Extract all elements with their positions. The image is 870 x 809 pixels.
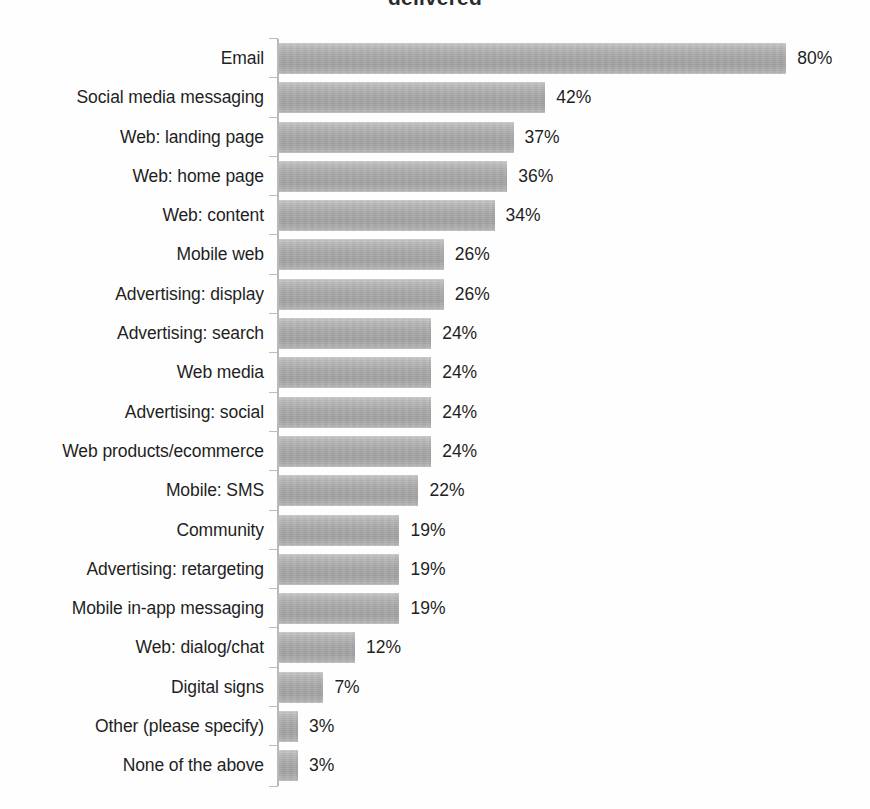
bar bbox=[279, 672, 323, 703]
axis-tick bbox=[269, 156, 278, 157]
bar bbox=[279, 397, 431, 428]
category-label: Other (please specify) bbox=[95, 707, 264, 746]
bar-row: Web products/ecommerce24% bbox=[0, 432, 870, 471]
category-label: None of the above bbox=[123, 746, 264, 785]
bar-fill bbox=[279, 239, 444, 270]
bar-value-label: 34% bbox=[506, 196, 541, 235]
bar-value-label: 24% bbox=[442, 353, 477, 392]
category-label: Mobile web bbox=[176, 235, 264, 274]
bar bbox=[279, 357, 431, 388]
bar bbox=[279, 318, 431, 349]
category-label: Digital signs bbox=[171, 668, 264, 707]
bar bbox=[279, 239, 444, 270]
bar-fill bbox=[279, 200, 495, 231]
bar-value-label: 26% bbox=[455, 235, 490, 274]
bar bbox=[279, 43, 786, 74]
axis-tick bbox=[269, 470, 278, 471]
category-label: Web: home page bbox=[132, 157, 264, 196]
bar bbox=[279, 436, 431, 467]
bar-fill bbox=[279, 318, 431, 349]
bar-fill bbox=[279, 357, 431, 388]
bar-fill bbox=[279, 632, 355, 663]
bar-row: Web: landing page37% bbox=[0, 118, 870, 157]
bar-row: Web: content34% bbox=[0, 196, 870, 235]
category-label: Web: landing page bbox=[120, 118, 264, 157]
bar bbox=[279, 711, 298, 742]
bar-fill bbox=[279, 554, 399, 585]
bar bbox=[279, 475, 418, 506]
bar-value-label: 22% bbox=[429, 471, 464, 510]
bar-value-label: 19% bbox=[410, 550, 445, 589]
axis-tick bbox=[269, 588, 278, 589]
category-label: Advertising: display bbox=[115, 275, 264, 314]
category-label: Email bbox=[221, 39, 264, 78]
axis-tick bbox=[269, 549, 278, 550]
bar-fill bbox=[279, 475, 418, 506]
bar bbox=[279, 122, 514, 153]
category-label: Advertising: social bbox=[125, 393, 264, 432]
bar-row: Social media messaging42% bbox=[0, 78, 870, 117]
bar bbox=[279, 750, 298, 781]
category-label: Advertising: search bbox=[117, 314, 264, 353]
category-label: Web media bbox=[177, 353, 264, 392]
bar bbox=[279, 554, 399, 585]
bar-fill bbox=[279, 593, 399, 624]
category-label: Mobile in-app messaging bbox=[72, 589, 264, 628]
bar-row: Other (please specify)3% bbox=[0, 707, 870, 746]
bar-row: Community19% bbox=[0, 511, 870, 550]
bar-value-label: 19% bbox=[410, 511, 445, 550]
bar-row: Mobile web26% bbox=[0, 235, 870, 274]
bar-row: Email80% bbox=[0, 39, 870, 78]
bar bbox=[279, 200, 495, 231]
bar-row: Advertising: social24% bbox=[0, 393, 870, 432]
bar bbox=[279, 632, 355, 663]
bar-fill bbox=[279, 672, 323, 703]
axis-tick bbox=[269, 77, 278, 78]
axis-tick bbox=[269, 745, 278, 746]
bar-value-label: 24% bbox=[442, 432, 477, 471]
axis-tick bbox=[269, 510, 278, 511]
bar-fill bbox=[279, 515, 399, 546]
bar-row: Advertising: display26% bbox=[0, 275, 870, 314]
category-label: Social media messaging bbox=[77, 78, 264, 117]
axis-tick bbox=[269, 667, 278, 668]
axis-tick bbox=[269, 117, 278, 118]
bar-fill bbox=[279, 161, 507, 192]
bar bbox=[279, 593, 399, 624]
bar-row: None of the above3% bbox=[0, 746, 870, 785]
bar-value-label: 37% bbox=[525, 118, 560, 157]
axis-tick bbox=[269, 706, 278, 707]
bar-row: Web media24% bbox=[0, 353, 870, 392]
bar-row: Mobile in-app messaging19% bbox=[0, 589, 870, 628]
category-label: Community bbox=[176, 511, 264, 550]
bar-value-label: 80% bbox=[797, 39, 832, 78]
category-label: Mobile: SMS bbox=[166, 471, 264, 510]
plot-area: Email80%Social media messaging42%Web: la… bbox=[0, 0, 870, 809]
bar-fill bbox=[279, 711, 298, 742]
axis-tick bbox=[269, 234, 278, 235]
axis-tick bbox=[269, 431, 278, 432]
axis-tick bbox=[269, 627, 278, 628]
bar-value-label: 24% bbox=[442, 393, 477, 432]
bar-row: Advertising: search24% bbox=[0, 314, 870, 353]
bar-fill bbox=[279, 279, 444, 310]
bar-chart: delivered Email80%Social media messaging… bbox=[0, 0, 870, 809]
axis-tick bbox=[269, 38, 278, 39]
bar-fill bbox=[279, 82, 545, 113]
bar-row: Web: dialog/chat12% bbox=[0, 628, 870, 667]
bar-value-label: 24% bbox=[442, 314, 477, 353]
bar-value-label: 26% bbox=[455, 275, 490, 314]
bar bbox=[279, 515, 399, 546]
axis-tick bbox=[269, 195, 278, 196]
bar-fill bbox=[279, 43, 786, 74]
axis-tick bbox=[269, 786, 278, 787]
bar-value-label: 36% bbox=[518, 157, 553, 196]
axis-tick bbox=[269, 352, 278, 353]
axis-tick bbox=[269, 392, 278, 393]
bar-rows: Email80%Social media messaging42%Web: la… bbox=[0, 39, 870, 786]
bar-row: Web: home page36% bbox=[0, 157, 870, 196]
bar bbox=[279, 82, 545, 113]
bar-value-label: 3% bbox=[309, 746, 334, 785]
bar-row: Advertising: retargeting19% bbox=[0, 550, 870, 589]
category-label: Advertising: retargeting bbox=[86, 550, 264, 589]
